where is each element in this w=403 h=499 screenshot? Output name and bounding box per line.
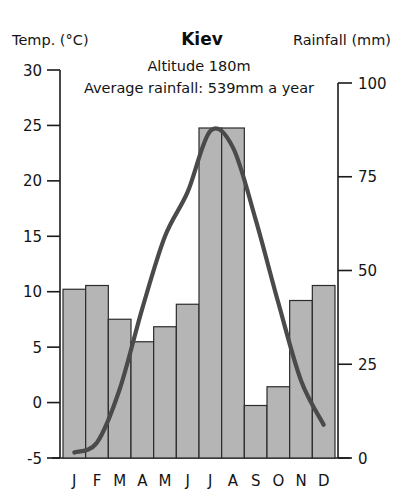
chart-title: Kiev [181,29,223,49]
month-label: F [93,472,102,490]
left-tick-label: -5 [27,450,42,468]
rainfall-bar [131,342,154,458]
left-tick-label: 0 [32,394,42,412]
rainfall-bar [154,327,177,458]
month-label: O [272,472,284,490]
rainfall-bar [222,128,245,458]
rainfall-bar [312,286,335,459]
month-label: A [137,472,148,490]
subtitle-rainfall: Average rainfall: 539mm a year [84,80,314,96]
right-tick-label: 25 [358,356,377,374]
left-tick-label: 10 [23,283,42,301]
left-tick-label: 15 [23,228,42,246]
month-label: M [159,472,172,490]
month-label: D [318,472,330,490]
left-tick-label: 30 [23,62,42,80]
rainfall-bar [176,304,199,458]
month-label: J [207,472,212,490]
left-tick-label: 20 [23,172,42,190]
rainfall-bar [63,289,86,458]
rainfall-bar [244,406,267,459]
right-tick-label: 75 [358,168,377,186]
month-label: N [295,472,306,490]
month-label: J [71,472,76,490]
left-axis-title: Temp. (°C) [11,32,89,48]
right-tick-label: 50 [358,262,377,280]
rainfall-bar [267,387,290,458]
subtitle-altitude: Altitude 180m [147,58,250,74]
month-label: M [113,472,126,490]
right-tick-label: 0 [358,450,368,468]
month-label: A [228,472,239,490]
left-tick-label: 25 [23,117,42,135]
month-label: S [251,472,261,490]
right-tick-label: 100 [358,75,387,93]
rainfall-bar [199,128,222,458]
month-label: J [184,472,189,490]
left-tick-label: 5 [32,339,42,357]
climate-chart: Temp. (°C) Kiev Rainfall (mm) Altitude 1… [0,0,403,499]
right-axis-title: Rainfall (mm) [293,32,391,48]
